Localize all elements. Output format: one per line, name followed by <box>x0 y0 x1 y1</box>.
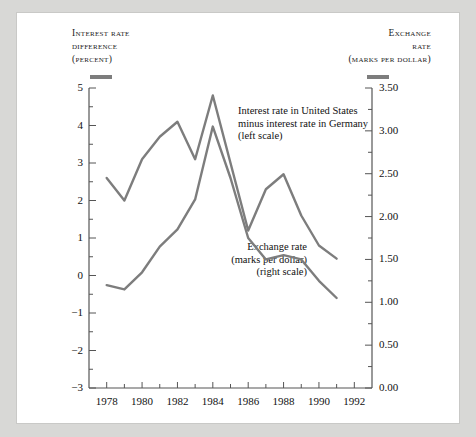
right-tick-label: 0.00 <box>379 381 398 393</box>
right-tick-label: 3.00 <box>379 124 398 136</box>
left-tick-label: 3 <box>43 156 83 168</box>
left-tick-label: −2 <box>43 344 83 356</box>
series-group <box>107 96 337 299</box>
chart-panel: Interest rate difference (percent) Excha… <box>17 13 459 423</box>
figure-frame: Interest rate difference (percent) Excha… <box>0 0 476 437</box>
left-tick-label: 4 <box>43 119 83 131</box>
series-line-exchange-rate <box>107 127 337 298</box>
axes-group <box>89 88 372 388</box>
left-tick-label: 1 <box>43 231 83 243</box>
right-tick-label: 3.50 <box>379 81 398 93</box>
right-tick-label: 2.00 <box>379 210 398 222</box>
left-tick-label: −3 <box>43 381 83 393</box>
right-tick-label: 1.00 <box>379 295 398 307</box>
left-tick-label: 0 <box>43 269 83 281</box>
x-tick-label: 1992 <box>329 395 379 407</box>
left-tick-label: −1 <box>43 306 83 318</box>
right-tick-label: 2.50 <box>379 167 398 179</box>
ticks-group <box>89 88 372 388</box>
right-tick-label: 0.50 <box>379 338 398 350</box>
right-tick-label: 1.50 <box>379 252 398 264</box>
left-tick-label: 2 <box>43 194 83 206</box>
left-tick-label: 5 <box>43 81 83 93</box>
series-line-interest-rate-difference <box>107 96 337 259</box>
